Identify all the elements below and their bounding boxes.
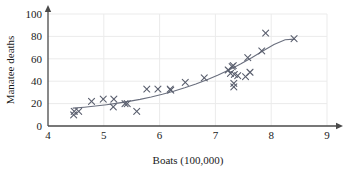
y-tick-label: 0 bbox=[37, 120, 43, 132]
data-point bbox=[134, 108, 140, 114]
x-tick-label: 6 bbox=[157, 129, 163, 141]
x-tick-label: 9 bbox=[324, 129, 330, 141]
data-point bbox=[144, 86, 150, 92]
axes bbox=[45, 5, 343, 129]
y-axis-arrow bbox=[45, 5, 51, 12]
y-tick-labels: 020406080100 bbox=[26, 8, 43, 132]
data-point bbox=[111, 96, 117, 102]
x-tick-label: 7 bbox=[213, 129, 219, 141]
y-axis-title: Manatee deaths bbox=[4, 36, 16, 105]
y-tick-label: 80 bbox=[31, 30, 43, 42]
y-tick-label: 20 bbox=[31, 97, 43, 109]
data-point bbox=[110, 104, 116, 110]
trend-curve bbox=[73, 39, 295, 108]
data-point bbox=[201, 75, 207, 81]
x-tick-label: 5 bbox=[101, 129, 107, 141]
scatter-chart: 020406080100 456789 Boats (100,000) Mana… bbox=[0, 0, 350, 169]
data-point bbox=[263, 30, 269, 36]
x-tick-labels: 456789 bbox=[45, 129, 330, 141]
x-tick-label: 4 bbox=[45, 129, 51, 141]
data-point bbox=[231, 84, 237, 90]
y-tick-label: 40 bbox=[31, 75, 43, 87]
chart-canvas: 020406080100 456789 Boats (100,000) Mana… bbox=[0, 0, 350, 169]
x-axis-arrow bbox=[336, 123, 343, 129]
x-tick-label: 8 bbox=[268, 129, 274, 141]
data-point bbox=[247, 69, 253, 75]
x-axis-title: Boats (100,000) bbox=[153, 154, 224, 167]
data-point bbox=[182, 79, 188, 85]
y-tick-label: 100 bbox=[26, 8, 43, 20]
gridlines bbox=[48, 14, 327, 126]
y-tick-label: 60 bbox=[31, 53, 43, 65]
data-point bbox=[100, 96, 106, 102]
